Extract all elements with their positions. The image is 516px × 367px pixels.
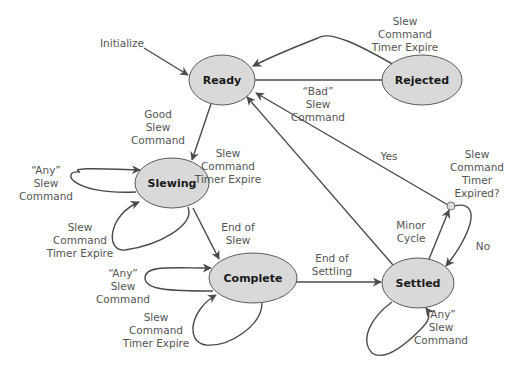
label-junction-3: Timer: [461, 174, 493, 186]
label-bad-slew-command-3: Command: [291, 111, 345, 123]
edge-slewing-timer-self: [112, 202, 189, 250]
label-junction-2: Command: [450, 161, 504, 173]
label-end-of-settling-1: End of: [315, 252, 349, 264]
edge-junction-yes: [256, 93, 448, 205]
label-good-slew-2: Slew: [146, 121, 171, 133]
state-settled: Settled: [382, 258, 454, 308]
label-minor-cycle-2: Cycle: [397, 232, 426, 244]
label-bad-slew-command-2: Slew: [306, 98, 331, 110]
state-ready-label: Ready: [203, 74, 241, 87]
label-end-of-slew-1: End of: [221, 221, 255, 233]
label-complete-any-1: “Any”: [108, 267, 138, 279]
label-initialize: Initialize: [100, 37, 144, 49]
state-complete-label: Complete: [224, 272, 283, 285]
label-settled-any-1: “Any”: [426, 308, 456, 320]
label-slewing-any-1: “Any”: [31, 164, 61, 176]
label-no: No: [476, 240, 490, 252]
edge-initialize: [144, 48, 188, 75]
label-slewing-any-2: Slew: [34, 177, 59, 189]
label-slewing-timer-1: Slew: [68, 221, 93, 233]
label-complete-timer-3: Timer Expire: [122, 337, 189, 349]
edge-settled-to-junction: [429, 210, 449, 259]
label-settled-any-2: Slew: [429, 321, 454, 333]
state-ready: Ready: [189, 55, 255, 105]
edge-settled-any-self-loop: [367, 302, 429, 356]
state-slewing-label: Slewing: [148, 177, 197, 190]
state-diagram: Ready Rejected Slewing Complete Settled …: [0, 0, 516, 367]
label-bad-slew-command-1: “Bad”: [303, 85, 334, 97]
label-junction-1: Slew: [465, 148, 490, 160]
label-junction-4: Expired?: [454, 187, 499, 199]
label-settled-timer-2: Command: [201, 160, 255, 172]
label-yes: Yes: [380, 150, 398, 162]
edge-slewing-any-self: [71, 169, 140, 193]
label-rejected-timer-1: Slew: [393, 15, 418, 27]
label-good-slew-3: Command: [131, 134, 185, 146]
state-complete: Complete: [209, 253, 297, 303]
label-slewing-timer-2: Command: [53, 234, 107, 246]
label-complete-any-3: Command: [96, 293, 150, 305]
label-good-slew-1: Good: [144, 108, 172, 120]
label-complete-timer-2: Command: [129, 324, 183, 336]
label-settled-timer-3: Timer Expire: [194, 173, 261, 185]
state-rejected-label: Rejected: [395, 74, 449, 87]
edge-junction-no: [446, 205, 471, 266]
edge-complete-any-self: [145, 268, 213, 291]
label-settled-any-3: Command: [414, 334, 468, 346]
label-end-of-settling-2: Settling: [312, 265, 353, 277]
label-complete-timer-1: Slew: [144, 311, 169, 323]
state-settled-label: Settled: [395, 277, 440, 290]
label-slewing-timer-3: Timer Expire: [46, 247, 113, 259]
decision-junction: [447, 202, 455, 210]
label-complete-any-2: Slew: [111, 280, 136, 292]
label-settled-timer-1: Slew: [216, 147, 241, 159]
label-minor-cycle-1: Minor: [396, 219, 426, 231]
edge-ready-to-slewing: [192, 104, 211, 160]
label-rejected-timer-2: Command: [378, 28, 432, 40]
state-rejected: Rejected: [382, 55, 462, 105]
edge-slewing-to-complete: [193, 208, 219, 259]
label-end-of-slew-2: Slew: [226, 234, 251, 246]
label-rejected-timer-3: Timer Expire: [371, 41, 438, 53]
label-slewing-any-3: Command: [19, 190, 73, 202]
